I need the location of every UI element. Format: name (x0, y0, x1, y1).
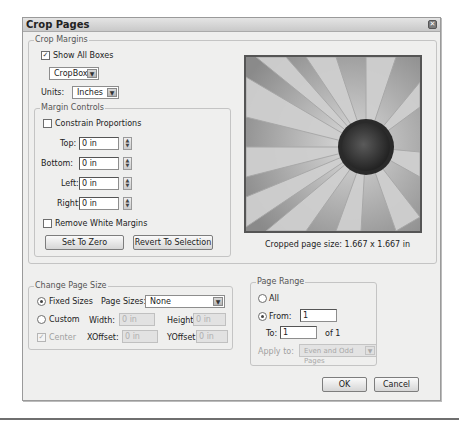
title-bar[interactable]: Crop Pages ✕ (23, 18, 440, 32)
down-arrow-icon[interactable]: ▼ (124, 183, 131, 188)
crop-pages-dialog: Crop Pages ✕ Crop Margins ✓ Show All Box… (22, 17, 441, 401)
left-margin-input[interactable]: 0 in (79, 177, 119, 190)
left-label: Left: (61, 179, 79, 189)
remove-white-margins-checkbox[interactable] (43, 219, 52, 228)
left-margin-value: 0 in (82, 179, 97, 189)
box-type-value: CropBox (54, 69, 88, 79)
constrain-proportions-label: Constrain Proportions (55, 119, 141, 129)
dialog-title: Crop Pages (26, 19, 89, 30)
margin-controls-legend: Margin Controls (40, 103, 105, 113)
from-page-input[interactable]: 1 (300, 309, 337, 322)
width-input[interactable]: 0 in (119, 313, 155, 326)
chevron-down-icon: ▼ (107, 88, 117, 97)
units-label: Units: (41, 88, 64, 98)
height-label: Height: (167, 316, 196, 326)
chevron-down-icon: ▼ (87, 69, 97, 78)
close-icon[interactable]: ✕ (428, 20, 437, 29)
margin-controls-group: Margin Controls Constrain Proportions To… (34, 108, 231, 257)
width-value: 0 in (122, 315, 137, 325)
custom-label: Custom (49, 315, 80, 325)
units-value: Inches (77, 88, 103, 98)
units-select[interactable]: Inches ▼ (72, 86, 119, 99)
from-page-value: 1 (303, 311, 308, 321)
top-label: Top: (60, 139, 76, 149)
xoffset-input[interactable]: 0 in (122, 330, 158, 343)
fixed-sizes-label: Fixed Sizes (49, 297, 93, 307)
left-margin-stepper[interactable]: ▲▼ (123, 177, 132, 190)
chevron-down-icon: ▼ (365, 346, 375, 355)
chevron-down-icon: ▼ (213, 297, 223, 306)
revert-to-selection-button[interactable]: Revert To Selection (133, 235, 213, 250)
apply-to-label: Apply to: (258, 347, 294, 357)
yoffset-label: YOffset: (167, 333, 198, 343)
bottom-margin-input[interactable]: 0 in (79, 157, 119, 170)
page-sizes-select[interactable]: None ▼ (145, 295, 225, 308)
constrain-proportions-checkbox[interactable] (43, 119, 52, 128)
page-range-group: Page Range All From: 1 To: 1 of 1 Apply … (250, 282, 377, 366)
daisy-flower-image (246, 57, 420, 231)
down-arrow-icon[interactable]: ▼ (124, 163, 131, 168)
to-page-input[interactable]: 1 (280, 326, 317, 339)
down-arrow-icon[interactable]: ▼ (124, 203, 131, 208)
crop-margins-group: Crop Margins ✓ Show All Boxes CropBox ▼ … (28, 40, 437, 264)
bottom-margin-stepper[interactable]: ▲▼ (123, 157, 132, 170)
right-margin-input[interactable]: 0 in (79, 197, 119, 210)
down-arrow-icon[interactable]: ▼ (124, 143, 131, 148)
divider-line (0, 418, 459, 420)
cropped-page-size-caption: Cropped page size: 1.667 x 1.667 in (265, 240, 410, 250)
center-checkbox[interactable]: ✓ (37, 333, 46, 342)
top-margin-stepper[interactable]: ▲▼ (123, 137, 132, 150)
right-label: Right: (57, 199, 81, 209)
show-all-boxes-label: Show All Boxes (53, 51, 113, 61)
bottom-margin-value: 0 in (82, 159, 97, 169)
from-radio[interactable] (258, 312, 267, 321)
cancel-button[interactable]: Cancel (374, 377, 419, 392)
width-label: Width: (89, 316, 115, 326)
page-preview-image (244, 55, 422, 233)
bottom-label: Bottom: (41, 159, 73, 169)
custom-radio[interactable] (37, 315, 46, 324)
page-total-label: of 1 (325, 329, 340, 339)
yoffset-input[interactable]: 0 in (196, 330, 228, 343)
remove-white-margins-label: Remove White Margins (55, 219, 147, 229)
change-page-size-group: Change Page Size Fixed Sizes Page Sizes:… (28, 286, 233, 350)
all-pages-label: All (269, 294, 279, 304)
yoffset-value: 0 in (199, 332, 214, 342)
right-margin-value: 0 in (82, 199, 97, 209)
top-margin-input[interactable]: 0 in (79, 137, 119, 150)
height-value: 0 in (196, 315, 211, 325)
from-label: From: (269, 312, 292, 322)
set-to-zero-button[interactable]: Set To Zero (45, 235, 124, 250)
box-type-select[interactable]: CropBox ▼ (49, 67, 99, 80)
page-sizes-label: Page Sizes: (101, 297, 146, 307)
top-margin-value: 0 in (82, 139, 97, 149)
to-label: To: (266, 329, 277, 339)
to-page-value: 1 (283, 328, 288, 338)
right-margin-stepper[interactable]: ▲▼ (123, 197, 132, 210)
crop-margins-legend: Crop Margins (34, 35, 89, 45)
center-label: Center (49, 333, 76, 343)
change-page-size-legend: Change Page Size (34, 281, 108, 291)
page-sizes-value: None (150, 297, 171, 307)
xoffset-label: XOffset: (87, 333, 119, 343)
fixed-sizes-radio[interactable] (37, 297, 46, 306)
apply-to-select[interactable]: Even and Odd Pages ▼ (299, 344, 377, 357)
xoffset-value: 0 in (125, 332, 140, 342)
height-input[interactable]: 0 in (193, 313, 226, 326)
page-range-legend: Page Range (256, 277, 305, 287)
all-pages-radio[interactable] (258, 294, 267, 303)
show-all-boxes-checkbox[interactable]: ✓ (41, 51, 50, 60)
ok-button[interactable]: OK (322, 377, 367, 392)
